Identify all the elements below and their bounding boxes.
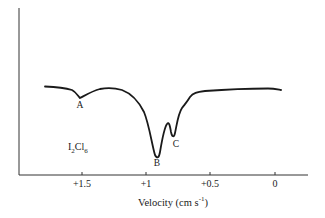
compound-sub-2: 6 [84,147,88,155]
peak-label-a: A [77,100,84,110]
x-tick-label-0: 0 [273,178,278,189]
x-tick-label-0-5: +0.5 [201,178,219,189]
x-tick-label-1: +1 [141,178,152,189]
compound-mid: Cl [75,141,84,152]
x-axis-label: Velocity (cm s-1) [138,195,208,208]
peak-label-b: B [154,158,160,168]
x-axis-label-text: Velocity (cm s [138,197,199,208]
x-axis-label-close: ) [205,197,209,208]
compound-label: I2Cl6 [68,141,88,155]
peak-label-c: C [173,139,179,149]
x-tick-label-1-5: +1.5 [73,178,91,189]
